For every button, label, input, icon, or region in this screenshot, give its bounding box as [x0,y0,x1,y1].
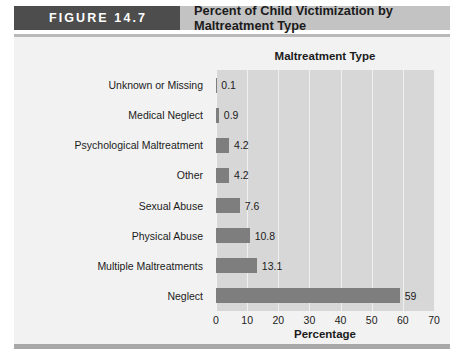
category-label: Physical Abuse [14,221,210,251]
bar [216,198,240,213]
bar-value-label: 13.1 [262,260,282,272]
x-tick-label: 60 [397,314,409,326]
chart-title: Maltreatment Type [216,50,434,62]
bar [216,258,257,273]
x-tick-label: 40 [335,314,347,326]
bar-row: 13.1 [216,251,434,281]
category-label: Multiple Maltreatments [14,251,210,281]
bar-value-label: 0.1 [221,79,236,91]
bar-value-label: 7.6 [245,200,260,212]
bar-row: 0.9 [216,100,434,130]
bar [216,288,400,303]
category-label: Unknown or Missing [14,70,210,100]
bar [216,168,229,183]
gridline [434,70,435,311]
panel-top-divider [14,34,450,37]
x-tick-label: 10 [241,314,253,326]
bar [216,108,219,123]
bar-row: 4.2 [216,130,434,160]
bar-row: 10.8 [216,221,434,251]
category-label: Psychological Maltreatment [14,130,210,160]
bar-row: 0.1 [216,70,434,100]
category-label: Medical Neglect [14,100,210,130]
x-axis-ticks: 010203040506070 [216,314,434,328]
bar [216,228,250,243]
bar-row: 4.2 [216,160,434,190]
figure-number-tag: FIGURE 14.7 [14,6,180,30]
x-tick-label: 50 [366,314,378,326]
category-label: Neglect [14,281,210,311]
figure-header: FIGURE 14.7 Percent of Child Victimizati… [14,6,450,30]
category-label: Sexual Abuse [14,191,210,221]
figure-body-panel: Maltreatment Type Unknown or MissingMedi… [14,34,450,344]
x-tick-label: 70 [428,314,440,326]
x-tick-label: 30 [304,314,316,326]
plot-area: 0.10.94.24.27.610.813.159 [216,70,434,311]
panel-bottom-divider [14,344,450,349]
x-tick-label: 0 [213,314,219,326]
figure-title-banner: Percent of Child Victimization by Maltre… [180,6,450,30]
bar-value-label: 4.2 [234,169,249,181]
bar-value-label: 0.9 [224,109,239,121]
category-label: Other [14,160,210,190]
x-axis-label: Percentage [216,328,434,340]
bar-value-label: 10.8 [255,230,275,242]
bar-row: 59 [216,281,434,311]
bar-rows: 0.10.94.24.27.610.813.159 [216,70,434,311]
bar-value-label: 59 [405,290,417,302]
x-tick-label: 20 [272,314,284,326]
bar-row: 7.6 [216,191,434,221]
figure-container: FIGURE 14.7 Percent of Child Victimizati… [0,0,464,364]
bar [216,138,229,153]
category-axis-labels: Unknown or MissingMedical NeglectPsychol… [14,70,210,311]
bar-value-label: 4.2 [234,139,249,151]
